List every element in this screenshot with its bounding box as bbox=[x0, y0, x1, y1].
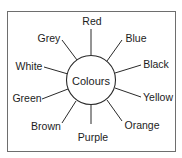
branch-label-white: White bbox=[16, 61, 43, 72]
branch-line bbox=[107, 100, 122, 121]
branch-line bbox=[44, 67, 68, 74]
branch-label-yellow: Yellow bbox=[143, 92, 173, 103]
branch-label-grey: Grey bbox=[38, 33, 61, 44]
branch-label-green: Green bbox=[12, 93, 41, 104]
branch-label-blue: Blue bbox=[125, 33, 146, 44]
branch-label-red: Red bbox=[82, 16, 101, 27]
branch-line bbox=[107, 40, 122, 61]
branch-label-orange: Orange bbox=[124, 120, 159, 131]
branch-label-black: Black bbox=[143, 59, 169, 70]
branch-label-purple: Purple bbox=[78, 132, 108, 143]
branch-line bbox=[115, 65, 141, 73]
branch-line bbox=[62, 101, 76, 123]
center-label: Colours bbox=[72, 76, 110, 87]
branch-line bbox=[42, 89, 68, 99]
branch-label-brown: Brown bbox=[31, 121, 61, 132]
branch-line bbox=[115, 88, 141, 97]
branch-line bbox=[62, 40, 77, 60]
